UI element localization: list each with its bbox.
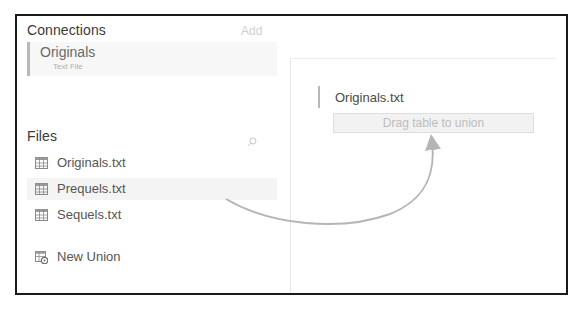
left-pane: Connections Add Originals Text File File… <box>17 16 290 293</box>
connections-title: Connections <box>27 22 106 38</box>
table-icon <box>35 157 48 169</box>
new-union-icon <box>35 251 48 264</box>
file-label: Prequels.txt <box>57 181 126 196</box>
file-item-originals[interactable]: Originals.txt <box>27 152 277 174</box>
connection-accent-bar <box>27 42 30 76</box>
file-label: Sequels.txt <box>57 207 121 222</box>
file-item-prequels[interactable]: Prequels.txt <box>27 178 277 200</box>
file-label: Originals.txt <box>57 155 126 170</box>
canvas-table-label: Originals.txt <box>335 90 404 105</box>
connection-type: Text File <box>53 62 83 71</box>
new-union-item[interactable]: New Union <box>27 246 277 268</box>
pane-divider[interactable] <box>290 58 291 293</box>
table-icon <box>35 209 48 221</box>
connection-name: Originals <box>40 44 95 60</box>
union-drop-zone[interactable]: Drag table to union <box>333 113 534 133</box>
file-item-sequels[interactable]: Sequels.txt <box>27 204 277 226</box>
new-union-label: New Union <box>57 249 121 264</box>
data-source-window: Connections Add Originals Text File File… <box>15 14 568 295</box>
search-icon[interactable] <box>247 137 257 147</box>
add-connection-link[interactable]: Add <box>241 24 262 38</box>
table-icon <box>35 183 48 195</box>
table-accent-bar <box>318 86 320 108</box>
connection-originals[interactable]: Originals Text File <box>27 42 277 76</box>
files-title: Files <box>27 128 57 144</box>
canvas-top-border <box>290 58 556 59</box>
